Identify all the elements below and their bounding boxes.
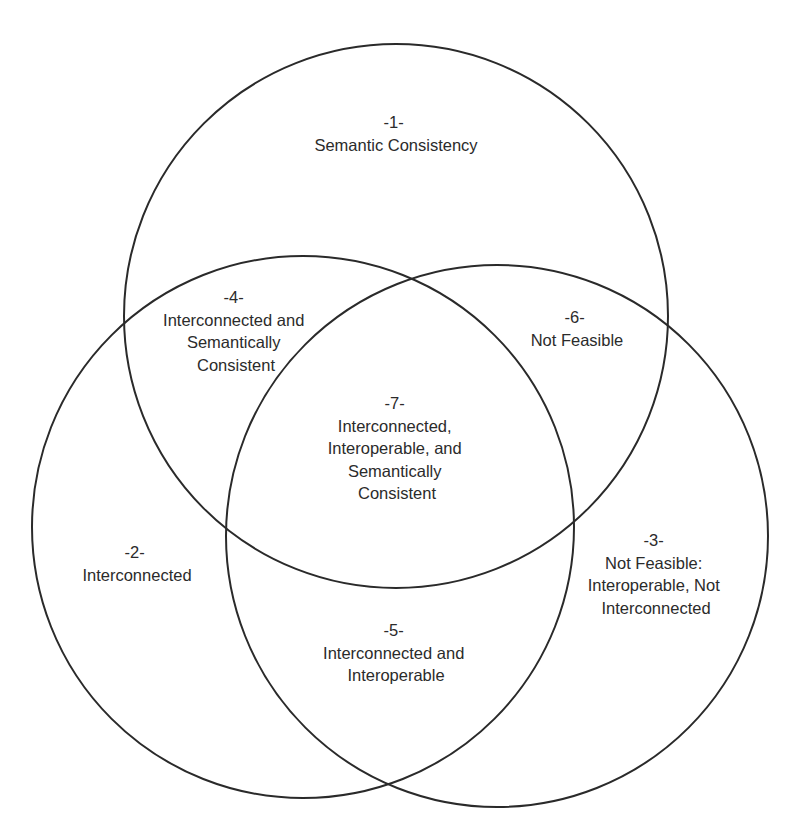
region-line: Interconnected, (338, 417, 452, 435)
region-number: -4- (224, 288, 244, 306)
region-line: Not Feasible: (605, 554, 702, 572)
region-line: Interoperable, and (328, 439, 462, 457)
venn-diagram: -1- Semantic Consistency -2- Interconnec… (0, 0, 795, 840)
region-line: Interconnected (82, 566, 191, 584)
region-labels-group: -1- Semantic Consistency -2- Interconnec… (82, 113, 724, 684)
region-line: Interconnected and (323, 644, 464, 662)
region-line: Consistent (358, 484, 436, 502)
circle-interoperable (226, 265, 768, 807)
region-label-5: -5- Interconnected and Interoperable (323, 621, 469, 684)
region-label-6: -6- Not Feasible (531, 308, 624, 349)
region-number: -2- (125, 543, 145, 561)
region-line: Semantic Consistency (314, 136, 478, 154)
region-label-1: -1- Semantic Consistency (314, 113, 478, 154)
region-label-4: -4- Interconnected and Semantically Cons… (163, 288, 309, 374)
region-line: Not Feasible (531, 331, 624, 349)
region-label-3: -3- Not Feasible: Interoperable, Not Int… (588, 531, 725, 617)
region-line: Interoperable, Not (588, 576, 720, 594)
region-line: Consistent (197, 356, 275, 374)
circle-interconnected (32, 256, 574, 798)
region-label-2: -2- Interconnected (82, 543, 191, 584)
region-line: Interconnected (601, 599, 710, 617)
region-number: -1- (384, 113, 404, 131)
region-line: Semantically (187, 333, 281, 351)
region-line: Interconnected and (163, 311, 304, 329)
region-label-7: -7- Interconnected, Interoperable, and S… (328, 394, 467, 502)
region-number: -6- (565, 308, 585, 326)
region-number: -5- (384, 621, 404, 639)
region-number: -7- (385, 394, 405, 412)
region-number: -3- (644, 531, 664, 549)
region-line: Interoperable (347, 666, 444, 684)
region-line: Semantically (348, 462, 442, 480)
